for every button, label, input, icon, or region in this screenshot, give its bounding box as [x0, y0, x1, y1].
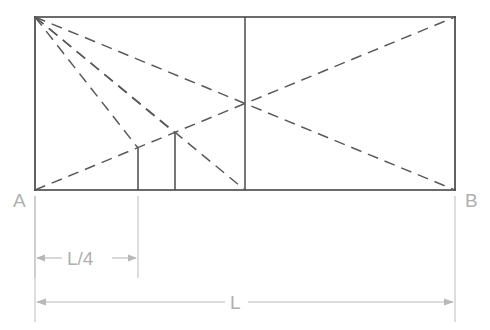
arrowhead-right-icon — [128, 255, 137, 262]
diagram-canvas: A B L/4 L — [0, 0, 490, 330]
dimension-full-span: L — [35, 196, 455, 322]
dimension-quarter-span: L/4 — [35, 196, 138, 278]
arrowhead-left-icon — [36, 255, 45, 262]
arrowhead-left-full-icon — [36, 299, 46, 306]
label-quarter-span: L/4 — [67, 248, 94, 269]
geometry-diagram: A B L/4 L — [0, 0, 490, 330]
label-support-a: A — [13, 190, 26, 211]
interior-verticals — [138, 17, 245, 190]
fan-ray-3 — [35, 17, 245, 190]
arrowhead-right-full-icon — [444, 299, 454, 306]
label-full-span: L — [230, 292, 241, 313]
fan-ray-1 — [35, 17, 138, 148]
label-support-b: B — [465, 190, 478, 211]
